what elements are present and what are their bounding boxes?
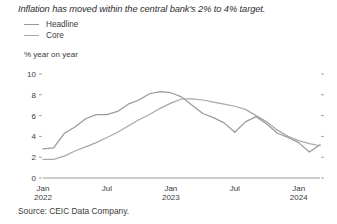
y-axis-tick-label: 6 xyxy=(32,112,37,121)
x-axis-tick-year-label: 2024 xyxy=(290,193,308,202)
inflation-chart-figure: Inflation has moved within the central b… xyxy=(0,0,337,224)
y-axis-tick-label: 4 xyxy=(32,132,37,141)
y-axis-tick-label: 8 xyxy=(32,91,37,100)
plot-area: 0246810Jan2022JulJan2023JulJan2024 xyxy=(0,0,337,224)
x-axis-tick-year-label: 2022 xyxy=(34,193,52,202)
y-axis-tick-label: 2 xyxy=(32,153,37,162)
y-axis-tick-label: 0 xyxy=(32,174,37,183)
x-axis-tick-label: Jan xyxy=(292,184,305,193)
x-axis-tick-label: Jan xyxy=(164,184,177,193)
x-axis-tick-label: Jan xyxy=(37,184,50,193)
x-axis-tick-year-label: 2023 xyxy=(162,193,180,202)
x-axis-tick-label: Jul xyxy=(102,184,112,193)
series-line-core xyxy=(43,99,320,159)
x-axis-tick-label: Jul xyxy=(230,184,240,193)
source-note: Source: CEIC Data Company. xyxy=(18,206,129,216)
series-line-headline xyxy=(43,92,320,152)
y-axis-tick-label: 10 xyxy=(27,70,36,79)
